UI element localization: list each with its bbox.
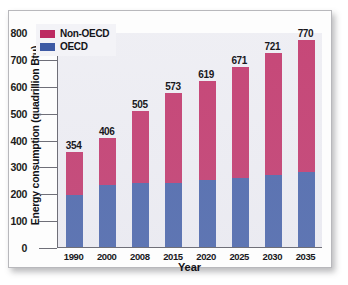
bar-series-layer xyxy=(58,33,322,247)
bar-segment-oecd xyxy=(232,178,249,247)
bar-group xyxy=(298,40,315,247)
y-axis-tick-label: 500 xyxy=(0,108,27,120)
bar-segment-oecd xyxy=(265,175,282,247)
bar-value-label: 406 xyxy=(86,126,128,137)
bar-group xyxy=(265,53,282,247)
bar-segment-non-oecd xyxy=(199,81,216,181)
y-axis-tick-label: 700 xyxy=(0,54,27,66)
x-axis-title: Year xyxy=(57,261,322,273)
y-axis-tick xyxy=(39,167,57,168)
bar-value-label: 354 xyxy=(53,140,95,151)
legend-swatch-icon xyxy=(40,30,55,38)
y-axis-tick-label: 600 xyxy=(0,81,27,93)
y-axis-tick-label: 200 xyxy=(0,188,27,200)
bar-segment-oecd xyxy=(99,185,116,247)
bar-group xyxy=(232,67,249,247)
bar-segment-oecd xyxy=(199,180,216,247)
bar-segment-non-oecd xyxy=(265,53,282,175)
figure-container: Energy consumption (quadrillion Btu) 010… xyxy=(0,0,348,285)
chart-card: Energy consumption (quadrillion Btu) 010… xyxy=(8,10,332,268)
plot-area xyxy=(57,33,322,248)
bar-group xyxy=(66,152,83,247)
y-axis-tick xyxy=(39,114,57,115)
bar-group xyxy=(165,93,182,247)
bar-value-label: 619 xyxy=(185,69,227,80)
legend-label: Non-OECD xyxy=(60,28,109,39)
bar-value-label: 671 xyxy=(218,55,260,66)
y-axis-tick-label: 800 xyxy=(0,27,27,39)
bar-segment-oecd xyxy=(66,195,83,247)
legend-item: Non-OECD xyxy=(40,27,109,40)
chart-legend: Non-OECDOECD xyxy=(36,24,116,56)
bar-value-label: 770 xyxy=(284,28,326,39)
bar-value-label: 505 xyxy=(119,99,161,110)
bar-group xyxy=(132,111,149,247)
y-axis-tick xyxy=(39,87,57,88)
bar-value-label: 721 xyxy=(251,41,293,52)
y-axis-tick-label: 300 xyxy=(0,161,27,173)
bar-segment-oecd xyxy=(132,183,149,247)
bar-segment-non-oecd xyxy=(298,40,315,172)
y-axis-tick-label: 400 xyxy=(0,135,27,147)
legend-label: OECD xyxy=(60,41,88,52)
y-axis-tick-label: 0 xyxy=(0,242,27,254)
y-axis-tick xyxy=(39,248,57,249)
legend-swatch-icon xyxy=(40,43,55,51)
bar-group xyxy=(99,138,116,247)
y-axis-tick xyxy=(39,60,57,61)
bar-segment-non-oecd xyxy=(165,93,182,182)
bar-value-label: 573 xyxy=(152,81,194,92)
y-axis-tick xyxy=(39,221,57,222)
bar-segment-non-oecd xyxy=(132,111,149,183)
bar-segment-oecd xyxy=(298,172,315,247)
bar-segment-non-oecd xyxy=(232,67,249,178)
y-axis-tick-label: 100 xyxy=(0,215,27,227)
legend-item: OECD xyxy=(40,40,109,53)
y-axis-tick xyxy=(39,194,57,195)
bar-segment-non-oecd xyxy=(66,152,83,195)
bar-group xyxy=(199,81,216,247)
bar-segment-non-oecd xyxy=(99,138,116,185)
bar-segment-oecd xyxy=(165,183,182,248)
